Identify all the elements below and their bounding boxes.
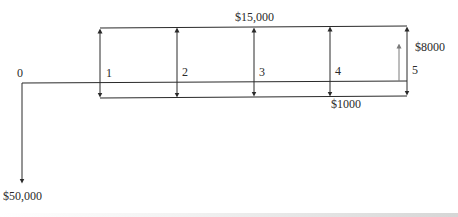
period-label-2: 2 (182, 65, 188, 79)
period-label-3: 3 (259, 65, 265, 79)
period-label-5: 5 (412, 63, 418, 77)
salvage-label: $8000 (415, 40, 445, 54)
period-label-4: 4 (335, 64, 341, 78)
revenue-label: $15,000 (235, 10, 274, 24)
initial-outflow-label: $50,000 (3, 189, 42, 203)
page-edge-shadow (0, 213, 458, 217)
cash-flow-diagram: 0 1 2 3 4 5 $15,000 $1000 $8000 $50,000 (0, 0, 458, 217)
time-axis (22, 81, 407, 83)
period-label-1: 1 (106, 66, 112, 80)
revenue-band-line (100, 26, 407, 28)
cost-label: $1000 (331, 97, 361, 111)
period-label-0: 0 (17, 66, 23, 80)
